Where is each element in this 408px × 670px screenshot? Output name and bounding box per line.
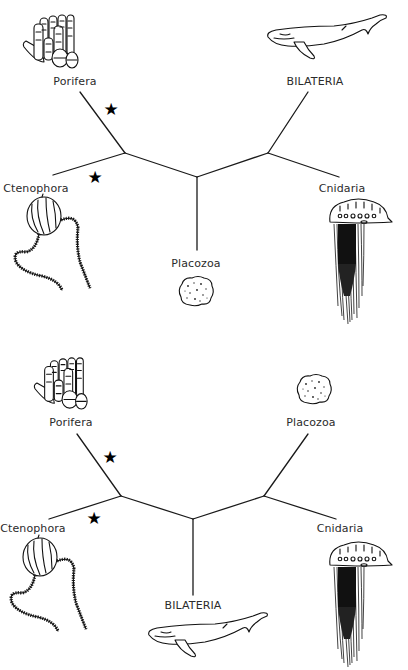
comb-jelly-icon bbox=[2, 533, 92, 641]
label-porifera: Porifera bbox=[49, 416, 92, 429]
star-marker: ★ bbox=[87, 169, 102, 186]
label-porifera: Porifera bbox=[53, 75, 96, 88]
man-o-war-icon bbox=[326, 196, 394, 326]
whale-icon bbox=[145, 605, 271, 665]
tree-panel-bottom: ★ ★ Porifera Ctenophora Placozoa BILATER… bbox=[0, 335, 408, 670]
tree-panel-top: ★ ★ Porifera Ctenophora Placozoa BILATER… bbox=[0, 0, 408, 335]
label-cnidaria: Cnidaria bbox=[317, 522, 364, 535]
comb-jelly-icon bbox=[6, 192, 96, 300]
star-marker: ★ bbox=[86, 510, 101, 527]
placozoan-icon bbox=[294, 372, 334, 406]
star-marker: ★ bbox=[102, 449, 117, 466]
star-marker: ★ bbox=[103, 101, 118, 118]
sponge-icon bbox=[22, 12, 84, 70]
whale-icon bbox=[264, 12, 390, 62]
label-bilateria: BILATERIA bbox=[287, 75, 344, 88]
man-o-war-icon bbox=[326, 539, 394, 669]
label-cnidaria: Cnidaria bbox=[319, 182, 366, 195]
placozoan-icon bbox=[176, 274, 216, 308]
sponge-icon bbox=[32, 355, 94, 411]
label-placozoa: Placozoa bbox=[171, 257, 220, 270]
label-placozoa: Placozoa bbox=[286, 416, 335, 429]
